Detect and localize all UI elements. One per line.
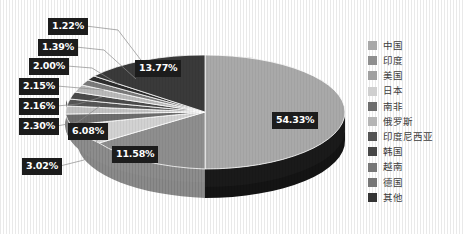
pie-chart-figure: 1.22% 1.39% 2.00% 2.15% 2.16% 2.30% 3.02…: [0, 0, 465, 234]
legend-label: 印度: [383, 56, 403, 66]
legend-label: 越南: [383, 162, 403, 172]
legend-item-russia[interactable]: 俄罗斯: [368, 114, 465, 129]
legend-swatch-icon: [368, 178, 377, 187]
legend-swatch-icon: [368, 87, 377, 96]
legend-item-vietnam[interactable]: 越南: [368, 160, 465, 175]
legend-label: 美国: [383, 71, 403, 81]
legend-label: 南非: [383, 102, 403, 112]
legend-swatch-icon: [368, 56, 377, 65]
legend-swatch-icon: [368, 41, 377, 50]
callout-6-08: 6.08%: [68, 123, 108, 140]
legend-label: 印度尼西亚: [383, 132, 433, 142]
legend-label: 俄罗斯: [383, 117, 413, 127]
callout-1-39: 1.39%: [38, 39, 78, 56]
callout-2-15: 2.15%: [19, 78, 59, 95]
legend-swatch-icon: [368, 193, 377, 202]
callout-2-16: 2.16%: [19, 98, 59, 115]
legend-item-korea[interactable]: 韩国: [368, 144, 465, 159]
legend-item-india[interactable]: 印度: [368, 53, 465, 68]
legend-label: 日本: [383, 86, 403, 96]
legend-item-usa[interactable]: 美国: [368, 68, 465, 83]
legend-swatch-icon: [368, 117, 377, 126]
legend-item-china[interactable]: 中国: [368, 38, 465, 53]
chart-legend: 中国 印度 美国 日本 南非 俄罗斯 印度尼西亚 韩国: [368, 38, 465, 205]
legend-item-south-africa[interactable]: 南非: [368, 99, 465, 114]
legend-swatch-icon: [368, 147, 377, 156]
legend-swatch-icon: [368, 163, 377, 172]
legend-swatch-icon: [368, 102, 377, 111]
callout-13-77: 13.77%: [135, 60, 181, 77]
callout-1-22: 1.22%: [48, 18, 88, 35]
callout-11-58: 11.58%: [112, 146, 158, 163]
callout-2-00: 2.00%: [29, 58, 69, 75]
legend-label: 其他: [383, 193, 403, 203]
callout-2-30: 2.30%: [19, 118, 59, 135]
legend-swatch-icon: [368, 71, 377, 80]
legend-item-indonesia[interactable]: 印度尼西亚: [368, 129, 465, 144]
legend-item-other[interactable]: 其他: [368, 190, 465, 205]
callout-3-02: 3.02%: [22, 158, 62, 175]
callout-54-33: 54.33%: [272, 112, 318, 129]
legend-item-germany[interactable]: 德国: [368, 175, 465, 190]
legend-swatch-icon: [368, 132, 377, 141]
legend-label: 德国: [383, 178, 403, 188]
legend-item-japan[interactable]: 日本: [368, 84, 465, 99]
legend-label: 韩国: [383, 147, 403, 157]
legend-label: 中国: [383, 41, 403, 51]
